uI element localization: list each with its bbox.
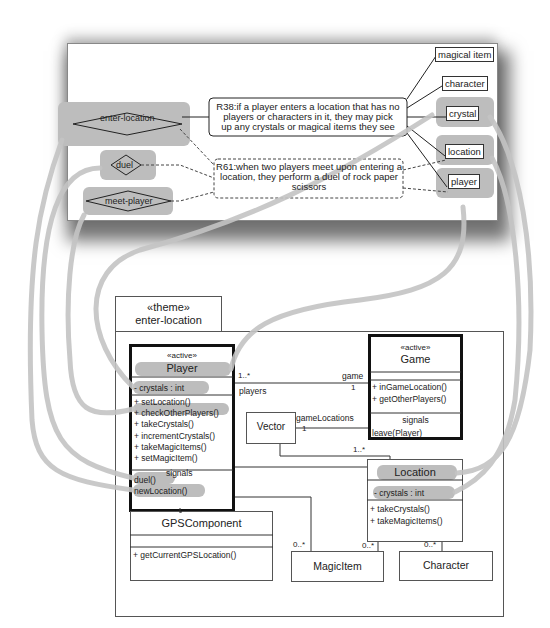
theme-name: enter-location (115, 314, 222, 326)
entity-crystal[interactable]: crystal (446, 106, 479, 121)
magic-item-name: MagicItem (291, 560, 384, 572)
action-meet-player[interactable]: meet-player (105, 195, 153, 207)
player-op: + incrementCrystals() (134, 431, 215, 442)
game-op: + getOtherPlayers() (372, 393, 446, 405)
game-name: Game (370, 353, 461, 365)
player-signal-newlocation: newLocation() (134, 485, 187, 497)
entity-magical-item[interactable]: magical item (435, 47, 494, 62)
game-signals-label: signals (370, 414, 461, 426)
action-duel[interactable]: duel (116, 159, 133, 171)
assoc-magicitem-player-mult: 0..* (293, 539, 305, 551)
entity-character[interactable]: character (442, 76, 488, 91)
theme-stereotype: «theme» (115, 301, 222, 313)
game-signal-leave: leave(Player) (372, 427, 422, 439)
location-op: + takeMagicItems() (370, 515, 443, 527)
diagram-lines (0, 0, 550, 628)
action-enter-location[interactable]: enter-location (100, 112, 155, 124)
player-signals-label: signals (166, 467, 192, 479)
player-op: + checkOtherPlayers() (134, 408, 219, 419)
gps-op: + getCurrentGPSLocation() (133, 549, 236, 561)
vector-name: Vector (246, 421, 296, 433)
assoc-player-mult: 1..* (238, 370, 250, 382)
player-op: + takeMagicItems() (134, 442, 207, 453)
gps-name: GPSComponent (130, 517, 273, 529)
game-op: + inGameLocation() (372, 381, 447, 393)
rule-r61: R61:when two players meet upon entering … (216, 162, 402, 192)
assoc-vector-mult: 1 (302, 423, 306, 435)
entity-player[interactable]: player (448, 174, 480, 189)
player-attr-crystals: - crystals : int (134, 382, 184, 394)
character-name: Character (399, 559, 493, 571)
player-op: + setLocation() (134, 397, 190, 408)
location-attr-crystals: - crystals : int (374, 487, 424, 499)
assoc-game-role: game (342, 370, 363, 382)
player-stereotype: «active» (131, 350, 233, 362)
player-name: Player (131, 362, 233, 374)
assoc-magicitem-location-mult: 0..* (362, 540, 374, 552)
assoc-game-mult: 1 (351, 382, 355, 394)
assoc-character-mult: 0..* (424, 539, 436, 551)
location-name: Location (367, 466, 463, 478)
rule-r38: R38:if a player enters a location that h… (212, 102, 404, 132)
entity-location[interactable]: location (445, 144, 484, 159)
player-op: + setMagicItem() (134, 453, 198, 464)
assoc-player-role: players (239, 385, 266, 397)
assoc-location-mult: 1..* (353, 444, 365, 456)
player-op: + takeCrystals() (134, 419, 194, 430)
location-op: + takeCrystals() (370, 503, 430, 515)
